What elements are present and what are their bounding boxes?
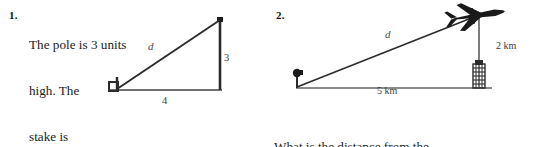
problem-2-horizontal-leg-label: 5 km xyxy=(377,85,397,96)
triangle-svg xyxy=(104,12,264,110)
problem-1-number: 1. xyxy=(9,9,18,21)
problem-2-prompt-line: What is the distance from the xyxy=(274,138,524,147)
problem-2-prompt: What is the distance from the spotlight … xyxy=(274,104,524,147)
problem-1: 1. The pole is 3 units high. The stake i… xyxy=(0,0,270,147)
airplane-icon xyxy=(443,0,506,34)
worksheet: 1. The pole is 3 units high. The stake i… xyxy=(0,0,540,147)
problem-2-hypotenuse-label: d xyxy=(385,28,391,40)
problem-1-hypotenuse-label: d xyxy=(148,40,154,52)
problem-2-vertical-leg-label: 2 km xyxy=(496,40,516,51)
hypotenuse-line xyxy=(297,15,479,87)
problem-1-diagram: d 3 4 xyxy=(104,12,264,110)
problem-1-prompt-line: stake is xyxy=(29,129,159,144)
problem-1-vertical-leg-label: 3 xyxy=(224,52,229,63)
problem-2: 2. xyxy=(270,0,540,147)
hypotenuse-line xyxy=(117,20,220,89)
problem-2-diagram: d 2 km 5 km xyxy=(282,2,538,102)
triangle-svg xyxy=(282,2,538,102)
problem-1-horizontal-leg-label: 4 xyxy=(162,95,167,106)
